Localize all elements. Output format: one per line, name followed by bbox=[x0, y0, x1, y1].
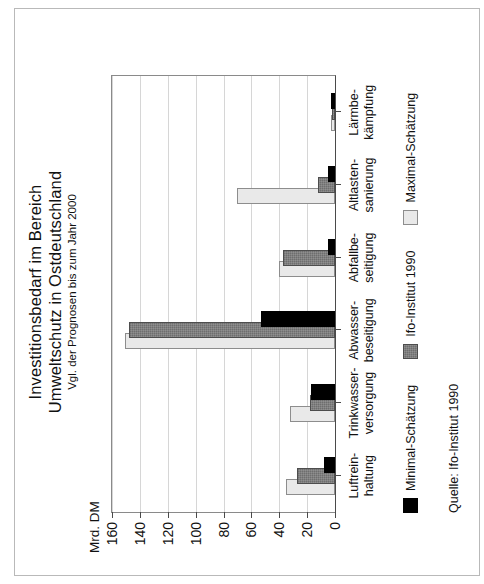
chart-rotation-wrapper: Investitionsbedarf im Bereich Umweltschu… bbox=[14, 8, 480, 576]
chart-canvas: Investitionsbedarf im Bereich Umweltschu… bbox=[15, 9, 479, 575]
legend-swatch-min bbox=[403, 498, 418, 513]
axis-tick bbox=[196, 512, 197, 518]
chart-legend: Minimal-SchätzungIfo-Institut 1990Maxima… bbox=[403, 77, 418, 513]
bar-group bbox=[112, 367, 335, 440]
category-label-line2: haltung bbox=[362, 453, 377, 499]
legend-item: Ifo-Institut 1990 bbox=[403, 251, 418, 359]
category-label-line1: Abwasser- bbox=[347, 298, 362, 362]
category-label-line1: Trinkwasser- bbox=[347, 367, 362, 438]
legend-label: Maximal-Schätzung bbox=[404, 93, 418, 203]
category-tick bbox=[335, 402, 341, 403]
axis-tick bbox=[112, 512, 113, 518]
category-label-line2: kämpfung bbox=[362, 85, 377, 140]
legend-label: Ifo-Institut 1990 bbox=[404, 251, 418, 337]
legend-label: Minimal-Schätzung bbox=[404, 385, 418, 491]
axis-tick bbox=[224, 512, 225, 518]
axis-tick-label: 80 bbox=[216, 522, 232, 562]
bar-min bbox=[328, 239, 335, 255]
bar-min bbox=[311, 384, 335, 400]
axis-tick bbox=[168, 512, 169, 518]
axis-tick-label: 140 bbox=[132, 522, 148, 562]
category-tick bbox=[335, 184, 341, 185]
chart-subtitle: Vgl. der Prognosen bis zum Jahr 2000 bbox=[66, 9, 78, 575]
category-label-line2: versorgung bbox=[362, 367, 377, 438]
category-tick bbox=[335, 111, 341, 112]
axis-tick-label: 100 bbox=[188, 522, 204, 562]
category-label-line2: seitigung bbox=[362, 233, 377, 283]
category-label-line1: Lärmbe- bbox=[347, 85, 362, 140]
axis-tick-label: 0 bbox=[327, 522, 343, 562]
legend-swatch-max bbox=[403, 210, 418, 225]
axis-unit-label: Mrd. DM bbox=[87, 501, 102, 553]
axis-tick bbox=[335, 512, 336, 518]
category-label: Lärmbe-kämpfung bbox=[347, 85, 377, 140]
category-label-line1: Abfallbe- bbox=[347, 233, 362, 283]
axis-tick bbox=[307, 512, 308, 518]
bar-min bbox=[324, 457, 335, 473]
axis-tick-label: 120 bbox=[160, 522, 176, 562]
chart-title-line1: Investitionsbedarf im Bereich bbox=[25, 9, 45, 575]
category-label: Luftrein-haltung bbox=[347, 453, 377, 499]
category-tick bbox=[335, 329, 341, 330]
category-label: Abwasser-beseitigung bbox=[347, 298, 377, 362]
category-label-line2: beseitigung bbox=[362, 298, 377, 362]
bar-group bbox=[112, 439, 335, 512]
category-tick bbox=[335, 257, 341, 258]
legend-item: Maximal-Schätzung bbox=[403, 93, 418, 225]
chart-title-line2: Umweltschutz in Ostdeutschland bbox=[45, 9, 65, 575]
category-label-line1: Luftrein- bbox=[347, 453, 362, 499]
bar-min bbox=[331, 93, 335, 109]
bar-min bbox=[328, 166, 335, 182]
bar-group bbox=[112, 149, 335, 222]
axis-tick-label: 40 bbox=[271, 522, 287, 562]
category-label: Altlasten-sanierung bbox=[347, 158, 377, 213]
axis-tick bbox=[279, 512, 280, 518]
axis-tick-label: 20 bbox=[299, 522, 315, 562]
plot-area: 160140120100806040200Luftrein-haltungTri… bbox=[111, 75, 336, 513]
category-label-line1: Altlasten- bbox=[347, 158, 362, 213]
source-note: Quelle: Ifo-Institut 1990 bbox=[447, 384, 461, 513]
axis-tick bbox=[251, 512, 252, 518]
bar-group bbox=[112, 294, 335, 367]
category-label-line2: sanierung bbox=[362, 158, 377, 213]
bar-group bbox=[112, 221, 335, 294]
legend-swatch-ifo bbox=[403, 344, 418, 359]
axis-tick-label: 60 bbox=[243, 522, 259, 562]
chart-title-block: Investitionsbedarf im Bereich Umweltschu… bbox=[25, 9, 78, 575]
axis-tick-label: 160 bbox=[104, 522, 120, 562]
axis-tick bbox=[140, 512, 141, 518]
category-label: Abfallbe-seitigung bbox=[347, 233, 377, 283]
figure-page: Abbildung: 3.2 Investitionsbedarf im Ber… bbox=[0, 0, 484, 584]
category-label: Trinkwasser-versorgung bbox=[347, 367, 377, 438]
category-tick bbox=[335, 475, 341, 476]
legend-item: Minimal-Schätzung bbox=[403, 385, 418, 513]
bar-group bbox=[112, 76, 335, 149]
bar-min bbox=[261, 311, 335, 327]
